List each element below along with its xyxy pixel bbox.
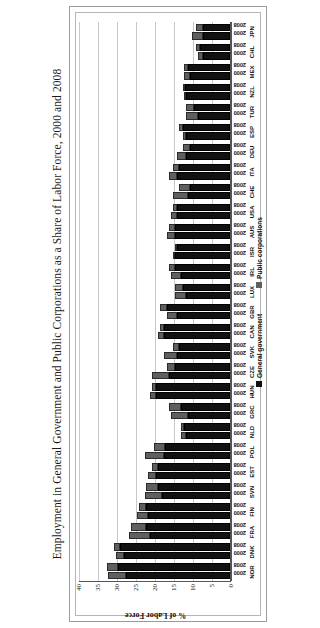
bar-DEU-2008[interactable] (183, 144, 227, 151)
bar-TUR-2000[interactable] (186, 112, 226, 119)
bar-CZE-2008[interactable] (167, 363, 226, 370)
segment-public-corporations-DNK-2000[interactable] (116, 552, 124, 559)
segment-general-government-DEU-2008[interactable] (190, 144, 226, 151)
segment-public-corporations-ITA-2000[interactable] (169, 172, 177, 179)
bar-EST-2000[interactable] (148, 472, 226, 479)
segment-general-government-TUR-2008[interactable] (194, 104, 226, 111)
segment-general-government-CHE-2000[interactable] (188, 192, 226, 199)
bar-NZL-2000[interactable] (184, 92, 226, 99)
segment-general-government-NZL-2008[interactable] (185, 84, 227, 91)
segment-general-government-MEX-2000[interactable] (190, 72, 226, 79)
segment-general-government-ITA-2000[interactable] (177, 172, 226, 179)
bar-CZE-2000[interactable] (152, 372, 226, 379)
segment-general-government-USA-2008[interactable] (177, 204, 226, 211)
bar-LUX-2008[interactable] (175, 284, 226, 291)
segment-general-government-POL-2000[interactable] (164, 452, 227, 459)
bar-NOR-2008[interactable] (107, 563, 227, 570)
segment-public-corporations-SVN-2008[interactable] (146, 483, 157, 490)
bar-SVK-2008[interactable] (173, 343, 226, 350)
bar-SVN-2000[interactable] (145, 492, 227, 499)
bar-USA-2008[interactable] (173, 204, 226, 211)
segment-public-corporations-JPN-2000[interactable] (192, 32, 203, 39)
segment-public-corporations-POL-2008[interactable] (154, 443, 165, 450)
bar-DNK-2008[interactable] (114, 543, 226, 550)
segment-general-government-MEX-2008[interactable] (188, 64, 226, 71)
segment-general-government-CZE-2008[interactable] (175, 363, 226, 370)
bar-NOR-2000[interactable] (108, 572, 226, 579)
bar-DNK-2000[interactable] (116, 552, 226, 559)
segment-general-government-CHL-2008[interactable] (200, 44, 226, 51)
segment-general-government-NLD-2000[interactable] (186, 432, 226, 439)
segment-public-corporations-FIN-2008[interactable] (139, 503, 147, 510)
segment-general-government-AUS-2008[interactable] (175, 224, 226, 231)
bar-MEX-2000[interactable] (184, 72, 226, 79)
segment-general-government-EST-2008[interactable] (158, 463, 226, 470)
segment-general-government-DEU-2000[interactable] (186, 152, 226, 159)
segment-public-corporations-FRA-2000[interactable] (129, 532, 150, 539)
segment-general-government-ISR-2008[interactable] (177, 244, 226, 251)
bar-NLD-2000[interactable] (181, 432, 226, 439)
bar-SVK-2000[interactable] (164, 352, 227, 359)
segment-public-corporations-DEU-2008[interactable] (183, 144, 191, 151)
bar-FIN-2000[interactable] (137, 512, 226, 519)
segment-general-government-HUN-2008[interactable] (156, 383, 226, 390)
bar-AUS-2008[interactable] (169, 224, 226, 231)
bar-ISR-2008[interactable] (175, 244, 226, 251)
segment-general-government-ESP-2000[interactable] (186, 132, 226, 139)
segment-general-government-IRL-2000[interactable] (181, 272, 226, 279)
bar-ISR-2000[interactable] (173, 252, 226, 259)
bar-ITA-2008[interactable] (173, 164, 226, 171)
segment-general-government-NZL-2000[interactable] (186, 92, 226, 99)
bar-NZL-2008[interactable] (183, 84, 227, 91)
bar-GBR-2008[interactable] (160, 304, 226, 311)
bar-CHL-2008[interactable] (196, 44, 226, 51)
segment-general-government-IRL-2008[interactable] (175, 264, 226, 271)
segment-general-government-SVN-2000[interactable] (162, 492, 226, 499)
bar-GRC-2000[interactable] (171, 412, 226, 419)
segment-general-government-LUX-2000[interactable] (186, 292, 226, 299)
segment-general-government-SVN-2008[interactable] (158, 483, 226, 490)
bar-HUN-2008[interactable] (152, 383, 226, 390)
segment-general-government-GBR-2000[interactable] (177, 312, 226, 319)
segment-public-corporations-TUR-2008[interactable] (186, 104, 194, 111)
segment-general-government-GRC-2000[interactable] (188, 412, 226, 419)
bar-FIN-2008[interactable] (139, 503, 226, 510)
segment-public-corporations-NOR-2000[interactable] (108, 572, 125, 579)
bar-JPN-2008[interactable] (196, 24, 226, 31)
segment-public-corporations-AUS-2000[interactable] (167, 232, 175, 239)
segment-general-government-SVK-2008[interactable] (179, 343, 226, 350)
bar-ESP-2008[interactable] (179, 124, 226, 131)
segment-general-government-DNK-2000[interactable] (124, 552, 226, 559)
segment-public-corporations-FIN-2000[interactable] (137, 512, 148, 519)
segment-general-government-SVK-2000[interactable] (177, 352, 226, 359)
segment-public-corporations-NOR-2008[interactable] (107, 563, 118, 570)
bar-ITA-2000[interactable] (169, 172, 226, 179)
segment-public-corporations-DEU-2000[interactable] (177, 152, 186, 159)
segment-public-corporations-LUX-2000[interactable] (175, 292, 186, 299)
bar-CHE-2000[interactable] (173, 192, 226, 199)
bar-DEU-2000[interactable] (177, 152, 226, 159)
bar-CHE-2008[interactable] (179, 184, 226, 191)
segment-general-government-CZE-2000[interactable] (169, 372, 226, 379)
segment-general-government-CHL-2000[interactable] (203, 52, 226, 59)
segment-public-corporations-IRL-2000[interactable] (171, 272, 180, 279)
bar-HUN-2000[interactable] (150, 392, 226, 399)
segment-general-government-GRC-2008[interactable] (181, 403, 226, 410)
bar-CAN-2008[interactable] (160, 324, 226, 331)
bar-SVN-2008[interactable] (146, 483, 226, 490)
bar-TUR-2008[interactable] (186, 104, 226, 111)
bar-GRC-2008[interactable] (169, 403, 226, 410)
segment-general-government-NLD-2008[interactable] (184, 423, 226, 430)
bar-IRL-2000[interactable] (171, 272, 226, 279)
bar-CAN-2000[interactable] (158, 332, 226, 339)
bar-FRA-2008[interactable] (131, 523, 226, 530)
segment-general-government-ESP-2008[interactable] (183, 124, 226, 131)
segment-public-corporations-LUX-2008[interactable] (175, 284, 183, 291)
bar-NLD-2008[interactable] (181, 423, 226, 430)
segment-public-corporations-POL-2000[interactable] (145, 452, 164, 459)
segment-general-government-TUR-2000[interactable] (198, 112, 226, 119)
segment-general-government-DNK-2008[interactable] (120, 543, 226, 550)
segment-general-government-JPN-2000[interactable] (203, 32, 226, 39)
bar-AUS-2000[interactable] (167, 232, 226, 239)
segment-general-government-CAN-2008[interactable] (164, 324, 226, 331)
